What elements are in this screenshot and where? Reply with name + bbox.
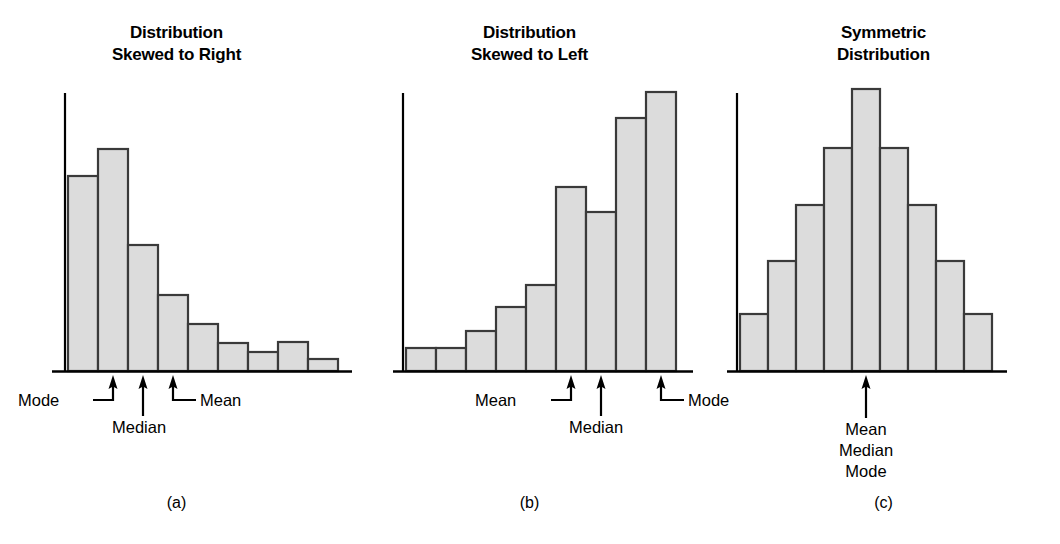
panel-b-label-mean: Mean [475,391,516,410]
panel-b-caption: (b) [353,494,706,512]
panel-a-arrow-mean [169,375,197,400]
panel-b-arrow-median [597,375,606,416]
panel-a-label-median: Median [112,418,166,437]
panel-c-arrow-center [862,375,871,418]
panel-c-caption: (c) [707,494,1060,512]
panel-b-plot [353,0,706,470]
panel-b-bars [406,92,676,371]
panel-a-arrow-mode [93,375,118,400]
statistics-figure: Distribution Skewed to Right [0,0,1060,544]
panel-c-plot [707,0,1060,470]
panel-c-label-mode: Mode [816,462,916,481]
panel-skewed-left: Distribution Skewed to Left [353,0,706,544]
panel-c-bars [740,89,992,371]
panel-b-arrow-mean [551,375,576,400]
panel-b-arrow-mode [657,375,685,400]
panel-c-label-median: Median [816,441,916,460]
panel-symmetric: Symmetric Distribution [707,0,1060,544]
panel-skewed-right: Distribution Skewed to Right [0,0,353,544]
panel-a-caption: (a) [0,494,353,512]
panel-a-arrow-median [139,375,148,416]
panel-a-label-mean: Mean [200,391,241,410]
panel-b-label-median: Median [569,418,623,437]
panel-a-label-mode: Mode [18,391,59,410]
panel-a-bars [68,149,338,371]
panel-c-label-mean: Mean [816,420,916,439]
